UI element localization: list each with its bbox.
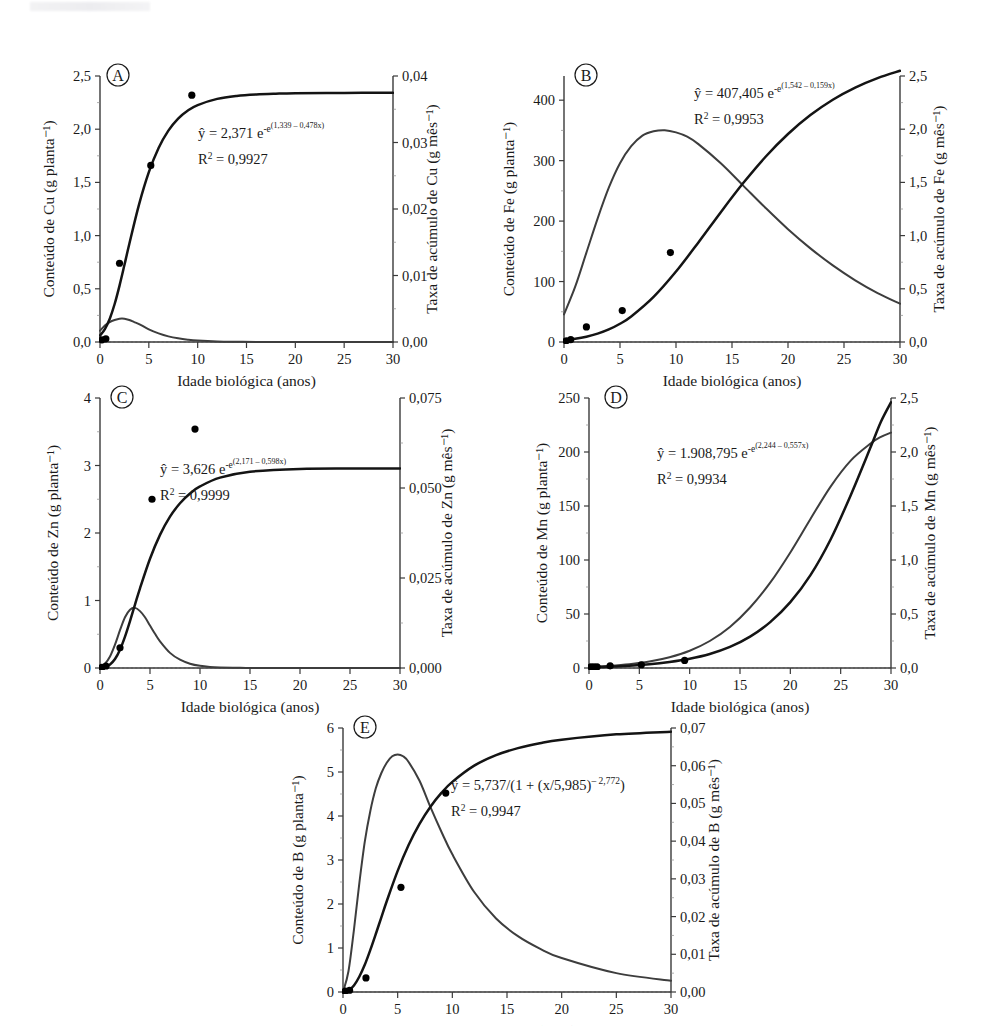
y2-tick-label: 0,03	[680, 871, 705, 887]
panel-letter-a: A	[112, 67, 124, 84]
x-tick-label: 15	[725, 351, 740, 367]
x-tick-label: 15	[239, 351, 254, 367]
chart-svg-a: 0510152025300,00,51,01,52,02,50,000,010,…	[0, 24, 498, 376]
equation-annotation: ŷ = 2,371 e-e(1,339 – 0,478x)	[198, 121, 324, 141]
data-point	[607, 662, 614, 669]
x-tick-label: 30	[893, 351, 908, 367]
y-tick-label: 100	[558, 552, 580, 568]
panel-letter-b: B	[581, 67, 592, 84]
y-tick-label: 3	[327, 852, 334, 868]
panel-letter-e: E	[360, 719, 370, 736]
x-tick-label: 10	[682, 677, 697, 693]
y-tick-label: 150	[558, 498, 580, 514]
data-point	[397, 884, 404, 891]
x-tick-label: 5	[146, 677, 153, 693]
chart-svg-d: 0510152025300501001502002500,00,51,01,52…	[494, 368, 992, 698]
y2-tick-label: 0,05	[680, 795, 705, 811]
y-axis-title: Conteúdo de Zn (g planta⁻¹)	[44, 445, 62, 621]
y2-axis-title: Taxa de acúmulo de Mn (g mês⁻¹)	[921, 427, 939, 640]
y-axis-title: Conteúdo de Fe (g planta⁻¹)	[500, 122, 518, 297]
r-squared-annotation: R2 = 0,9999	[160, 487, 230, 503]
data-point	[362, 974, 369, 981]
data-point	[442, 790, 449, 797]
content-curve-e	[343, 732, 671, 992]
data-point	[116, 260, 123, 267]
data-point	[593, 663, 600, 670]
x-tick-label: 30	[884, 677, 899, 693]
x-tick-label: 20	[781, 351, 796, 367]
x-tick-label: 20	[554, 1001, 569, 1017]
y-tick-label: 400	[533, 92, 555, 108]
panel-letter-c: C	[117, 389, 128, 406]
y-tick-label: 3	[84, 458, 91, 474]
x-tick-label: 25	[337, 351, 352, 367]
y2-axis-title: Taxa de acúmulo de Zn (g mês⁻¹)	[438, 429, 456, 638]
data-point	[567, 336, 574, 343]
x-axis-title: Idade biológica (anos)	[438, 1022, 577, 1026]
x-tick-label: 15	[500, 1001, 515, 1017]
y-tick-label: 2	[84, 525, 91, 541]
r-squared-annotation: R2 = 0,9947	[451, 803, 521, 819]
y-tick-label: 5	[327, 764, 334, 780]
y-tick-label: 1,5	[73, 174, 91, 190]
data-point	[346, 987, 353, 994]
y2-tick-label: 0,0	[909, 334, 927, 350]
x-tick-label: 30	[664, 1001, 679, 1017]
data-point	[667, 249, 674, 256]
y2-tick-label: 0,04	[680, 833, 706, 849]
content-curve-c	[100, 468, 400, 667]
x-tick-label: 20	[293, 677, 308, 693]
y2-tick-label: 1,5	[909, 174, 927, 190]
y-tick-label: 2,0	[73, 121, 91, 137]
y2-tick-label: 0,025	[409, 570, 442, 586]
y2-axis-title: Taxa de acúmulo de Fe (g mês⁻¹)	[930, 106, 948, 313]
y-tick-label: 0	[327, 984, 334, 1000]
x-tick-label: 10	[190, 351, 205, 367]
y2-tick-label: 0,04	[402, 68, 428, 84]
y2-tick-label: 2,5	[900, 390, 918, 406]
x-tick-label: 5	[394, 1001, 401, 1017]
y2-tick-label: 0,5	[909, 281, 927, 297]
y-tick-label: 1	[84, 593, 91, 609]
x-tick-label: 25	[609, 1001, 624, 1017]
equation-annotation: ŷ = 407,405 e-e(1,542 – 0,159x)	[694, 81, 835, 101]
y2-tick-label: 0,000	[409, 660, 442, 676]
rate-curve-c	[100, 608, 400, 668]
x-tick-label: 5	[616, 351, 623, 367]
x-tick-label: 0	[585, 677, 592, 693]
x-tick-label: 30	[386, 351, 401, 367]
chart-panel-a: 0510152025300,00,51,01,52,02,50,000,010,…	[0, 24, 498, 376]
rate-curve-d	[589, 433, 891, 667]
y-tick-label: 0	[573, 660, 580, 676]
y2-tick-label: 0,00	[402, 334, 427, 350]
y-tick-label: 50	[566, 606, 581, 622]
equation-annotation: ŷ = 1.908,795 e-e(2,244 – 0,557x)	[657, 441, 809, 461]
y2-tick-label: 0,050	[409, 480, 442, 496]
y-tick-label: 2	[327, 896, 334, 912]
data-point	[188, 92, 195, 99]
content-curve-d	[589, 402, 891, 667]
y-tick-label: 200	[533, 213, 555, 229]
y-tick-label: 250	[558, 390, 580, 406]
y2-tick-label: 0,01	[680, 946, 705, 962]
x-tick-label: 0	[339, 1001, 346, 1017]
scan-artifact	[30, 2, 150, 11]
y2-tick-label: 1,5	[900, 498, 918, 514]
equation-annotation: ŷ = 5,737/(1 + (x/5,985)– 2,772)	[451, 776, 625, 794]
y-tick-label: 6	[327, 720, 334, 736]
y-tick-label: 1,0	[73, 228, 91, 244]
data-point	[583, 323, 590, 330]
y-axis-title: Conteúdo de Mn (g planta⁻¹)	[533, 443, 551, 624]
y2-tick-label: 0,075	[409, 390, 442, 406]
y-tick-label: 1	[327, 940, 334, 956]
x-tick-label: 25	[837, 351, 852, 367]
chart-panel-c: 051015202530012340,0000,0250,0500,075CId…	[0, 368, 498, 698]
x-tick-label: 0	[96, 677, 103, 693]
x-tick-label: 15	[243, 677, 258, 693]
y2-tick-label: 2,0	[909, 121, 927, 137]
x-tick-label: 20	[288, 351, 303, 367]
rate-curve-a	[100, 319, 393, 342]
r-squared-annotation: R2 = 0,9927	[198, 151, 268, 167]
y2-axis-title: Taxa de acúmulo de Cu (g mês⁻¹)	[423, 104, 441, 314]
y2-tick-label: 2,0	[900, 444, 918, 460]
